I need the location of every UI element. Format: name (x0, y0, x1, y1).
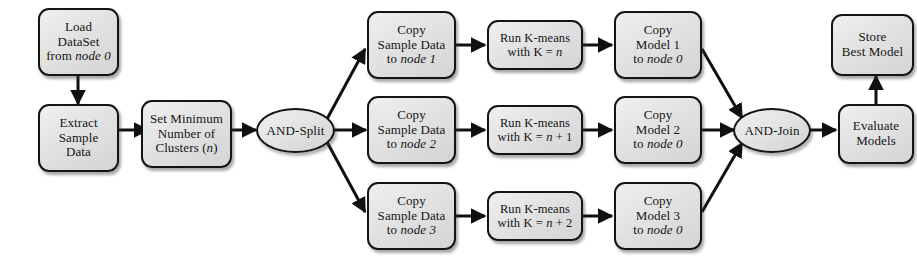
node-run-kmeans-3[interactable]: Run K-meanswith K = n + 2 (487, 191, 583, 241)
node-label: CopySample Datato node 1 (375, 23, 449, 67)
node-label: CopyModel 1to node 0 (630, 23, 685, 67)
node-copy-model-1[interactable]: CopyModel 1to node 0 (614, 11, 702, 79)
node-evaluate-models[interactable]: EvaluateModels (838, 104, 914, 164)
node-label: Run K-meanswith K = n + 1 (495, 116, 576, 145)
gateway-and-join[interactable]: AND-Join (733, 108, 811, 153)
edge-model1-to-join (702, 49, 742, 118)
node-label: Run K-meanswith K = n (497, 31, 573, 60)
node-load-dataset[interactable]: LoadDataSetfrom node 0 (38, 8, 119, 76)
node-copy-sample-data-1[interactable]: CopySample Datato node 1 (367, 11, 456, 79)
node-label: CopyModel 3to node 0 (630, 194, 685, 238)
node-label: Run K-meanswith K = n + 2 (495, 202, 576, 231)
node-copy-sample-data-2[interactable]: CopySample Datato node 2 (367, 96, 456, 164)
node-label: CopySample Datato node 3 (375, 194, 449, 238)
node-label: EvaluateModels (850, 119, 902, 149)
node-copy-model-2[interactable]: CopyModel 2to node 0 (614, 96, 702, 164)
node-label: CopySample Datato node 2 (375, 108, 449, 152)
workflow-diagram: LoadDataSetfrom node 0 ExtractSampleData… (0, 0, 917, 261)
node-run-kmeans-2[interactable]: Run K-meanswith K = n + 1 (487, 105, 583, 155)
node-store-best-model[interactable]: StoreBest Model (831, 14, 914, 76)
node-copy-model-3[interactable]: CopyModel 3to node 0 (614, 182, 702, 250)
node-label: ExtractSampleData (56, 116, 102, 160)
node-run-kmeans-1[interactable]: Run K-meanswith K = n (487, 20, 583, 70)
edge-model3-to-join (702, 143, 742, 212)
node-label: Set MinimumNumber ofClusters (n) (147, 112, 226, 156)
node-label: LoadDataSetfrom node 0 (43, 20, 114, 64)
node-extract-sample-data[interactable]: ExtractSampleData (38, 104, 119, 172)
gateway-label: AND-Join (745, 123, 800, 139)
node-set-minimum-clusters[interactable]: Set MinimumNumber ofClusters (n) (141, 100, 232, 168)
gateway-label: AND-Split (267, 123, 325, 139)
edge-split-to-copy1 (327, 49, 365, 119)
node-label: StoreBest Model (839, 30, 906, 60)
node-label: CopyModel 2to node 0 (630, 108, 685, 152)
gateway-and-split[interactable]: AND-Split (256, 108, 335, 153)
node-copy-sample-data-3[interactable]: CopySample Datato node 3 (367, 182, 456, 250)
edge-split-to-copy3 (327, 142, 365, 212)
